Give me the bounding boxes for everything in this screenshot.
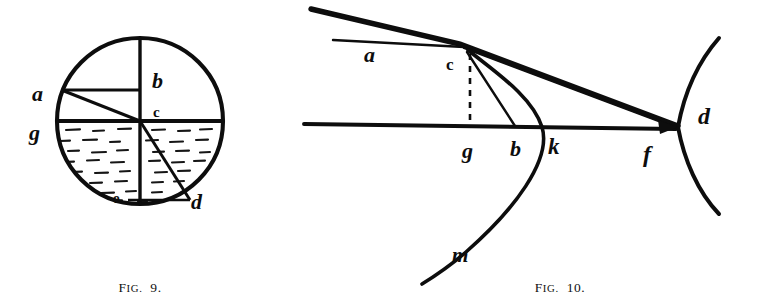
figure-9: a b c g e d	[0, 0, 280, 307]
figure-10-drawing: a c g b k f d m	[280, 0, 758, 290]
figure-10-label-g: g	[461, 138, 473, 163]
figure-10-caption-prefix: F	[535, 280, 543, 295]
figure-10-caption-small: IG.	[543, 282, 559, 294]
liquid-hatching	[60, 129, 212, 202]
figure-10-label-k: k	[548, 134, 560, 159]
figure-9-caption: FIG. 9.	[60, 280, 220, 296]
figure-9-caption-small: IG.	[126, 282, 142, 294]
ray-c-to-f	[464, 48, 677, 128]
figure-10-label-d: d	[698, 103, 711, 129]
figure-9-label-c: c	[153, 104, 160, 120]
figure-10-label-a: a	[364, 42, 375, 67]
figure-10-caption: FIG. 10.	[480, 280, 640, 296]
line-c-to-d	[140, 121, 190, 200]
figure-9-label-a: a	[32, 81, 43, 106]
figure-10-label-f: f	[643, 141, 653, 167]
figure-10-label-b: b	[510, 136, 521, 161]
figure-9-label-d: d	[191, 189, 203, 214]
figure-10-label-m: m	[452, 243, 468, 267]
figure-9-label-g: g	[28, 120, 40, 145]
figure-page: a b c g e d	[0, 0, 758, 307]
figure-10: a c g b k f d m	[280, 0, 758, 307]
figure-9-drawing: a b c g e d	[0, 0, 280, 280]
figure-9-label-b: b	[152, 68, 163, 93]
line-a-to-c	[64, 91, 140, 121]
figure-9-caption-number: 9.	[150, 280, 161, 295]
figure-10-caption-number: 10.	[567, 280, 586, 295]
caustic-curve-m	[422, 50, 544, 284]
figure-10-label-c: c	[446, 55, 454, 74]
optical-axis	[304, 124, 676, 129]
figure-9-label-e: e	[113, 190, 120, 206]
